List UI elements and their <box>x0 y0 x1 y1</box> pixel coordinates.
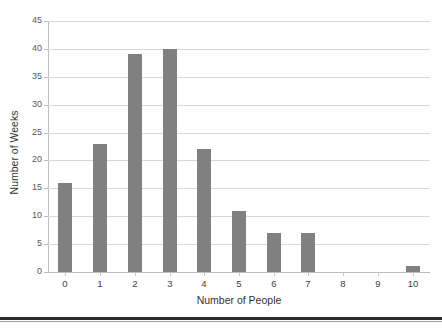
y-axis-label-35: 35 <box>2 72 42 81</box>
x-axis-label-4: 4 <box>189 278 219 289</box>
bar-1[interactable] <box>93 144 107 272</box>
bar-4[interactable] <box>197 149 211 272</box>
gridline-30 <box>48 105 430 106</box>
y-axis-tick-labels: 051015202530354045 <box>0 0 42 328</box>
gridline-35 <box>48 77 430 78</box>
bar-6[interactable] <box>267 233 281 272</box>
x-axis-tick-2 <box>135 273 136 276</box>
y-axis-tick-35 <box>44 77 48 78</box>
bar-3[interactable] <box>163 49 177 272</box>
x-axis-label-1: 1 <box>85 278 115 289</box>
gridline-25 <box>48 133 430 134</box>
x-axis-label-3: 3 <box>155 278 185 289</box>
bar-0[interactable] <box>58 183 72 272</box>
bar-5[interactable] <box>232 211 246 272</box>
x-axis-tick-10 <box>413 273 414 276</box>
bottom-divider-rule-secondary <box>0 321 442 322</box>
y-axis-label-0: 0 <box>2 267 42 276</box>
y-axis-tick-30 <box>44 105 48 106</box>
x-axis-tick-6 <box>274 273 275 276</box>
y-axis-title: Number of Weeks <box>8 98 21 208</box>
x-axis-label-0: 0 <box>50 278 80 289</box>
x-axis-label-5: 5 <box>224 278 254 289</box>
gridline-40 <box>48 49 430 50</box>
bar-10[interactable] <box>406 266 420 272</box>
x-axis-tick-5 <box>239 273 240 276</box>
y-axis-tick-5 <box>44 244 48 245</box>
y-axis-label-5: 5 <box>2 239 42 248</box>
x-axis-tick-1 <box>100 273 101 276</box>
gridline-45 <box>48 21 430 22</box>
y-axis-tick-15 <box>44 188 48 189</box>
chart-page: 051015202530354045 Number of People Numb… <box>0 0 442 328</box>
x-axis-title: Number of People <box>48 294 430 307</box>
y-axis-label-40: 40 <box>2 44 42 53</box>
y-axis-tick-40 <box>44 49 48 50</box>
x-axis-tick-9 <box>378 273 379 276</box>
y-axis-tick-10 <box>44 216 48 217</box>
bar-chart: 051015202530354045 Number of People Numb… <box>0 0 442 328</box>
x-axis-tick-8 <box>343 273 344 276</box>
x-axis-label-8: 8 <box>328 278 358 289</box>
plot-area <box>48 21 430 272</box>
x-axis-label-7: 7 <box>293 278 323 289</box>
y-axis-tick-0 <box>44 272 48 273</box>
x-axis-label-2: 2 <box>120 278 150 289</box>
y-axis-label-45: 45 <box>2 16 42 25</box>
y-axis-tick-45 <box>44 21 48 22</box>
y-axis-tick-25 <box>44 133 48 134</box>
x-axis-tick-4 <box>204 273 205 276</box>
x-axis-tick-3 <box>170 273 171 276</box>
x-axis-label-10: 10 <box>398 278 428 289</box>
x-axis-tick-0 <box>65 273 66 276</box>
y-axis-tick-20 <box>44 160 48 161</box>
y-axis-label-10: 10 <box>2 211 42 220</box>
bar-7[interactable] <box>301 233 315 272</box>
bar-2[interactable] <box>128 54 142 272</box>
x-axis-label-6: 6 <box>259 278 289 289</box>
x-axis-tick-7 <box>308 273 309 276</box>
x-axis-label-9: 9 <box>363 278 393 289</box>
bottom-divider-rule <box>0 317 442 320</box>
